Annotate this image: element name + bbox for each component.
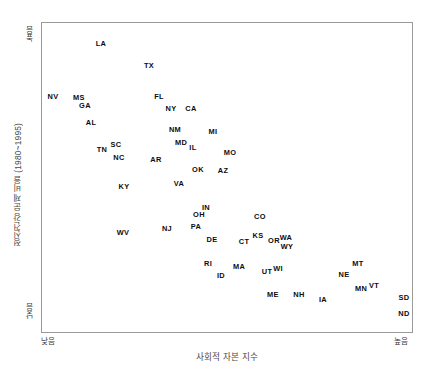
data-point-label: CA — [185, 105, 196, 112]
data-point-label: ND — [398, 310, 409, 317]
data-point-label: AL — [86, 119, 97, 126]
data-point-label: NC — [113, 154, 124, 161]
data-point-label: OH — [193, 211, 205, 218]
y-axis-tick-low: 낮음 — [27, 303, 39, 319]
data-point-label: UT — [262, 268, 273, 275]
data-point-label: OR — [268, 237, 280, 244]
data-point-label: NM — [169, 126, 181, 133]
data-point-label: WA — [280, 234, 293, 241]
data-point-label: CT — [239, 238, 250, 245]
data-point-label: VT — [369, 282, 379, 289]
data-point-label: SD — [399, 294, 410, 301]
data-point-label: KY — [119, 183, 130, 190]
data-point-label: WI — [273, 265, 283, 272]
data-point-label: FL — [154, 93, 164, 100]
data-point-label: OK — [192, 166, 204, 173]
data-point-label: WV — [117, 229, 130, 236]
data-point-label: ID — [217, 272, 225, 279]
data-point-label: ME — [267, 291, 279, 298]
scatter-plot-figure: 정신건강 문제 비율 (1980~1995) 높음 낮음 LATXNVMSGAF… — [0, 0, 432, 369]
data-point-label: MO — [224, 149, 237, 156]
data-point-label: GA — [79, 102, 91, 109]
data-point-label: MA — [233, 263, 245, 270]
data-point-label: MI — [209, 128, 218, 135]
data-point-label: NV — [48, 93, 59, 100]
data-point-label: MD — [175, 139, 187, 146]
data-point-label: LA — [96, 40, 107, 47]
data-point-label: RI — [204, 260, 212, 267]
data-point-label: AZ — [218, 167, 229, 174]
data-point-label: NY — [166, 105, 177, 112]
data-point-label: IL — [189, 144, 196, 151]
x-axis-tick-low: 낮음 — [41, 338, 55, 346]
data-point-label: IA — [319, 296, 327, 303]
data-point-label: NE — [339, 271, 350, 278]
data-point-label: MN — [355, 285, 367, 292]
data-point-label: CO — [254, 213, 266, 220]
data-point-label: TX — [144, 62, 154, 69]
plot-area: LATXNVMSGAFLNYCAALNMMIMDILTNSCNCARMOOKAZ… — [41, 22, 413, 333]
data-point-label: PA — [191, 223, 201, 230]
y-axis-tick-high: 높음 — [27, 26, 39, 42]
data-point-label: SC — [111, 141, 122, 148]
data-point-label: KS — [253, 232, 264, 239]
data-point-label: TN — [97, 146, 108, 153]
x-axis-tick-high: 높음 — [394, 338, 408, 346]
data-point-label: AR — [150, 156, 161, 163]
data-point-label: NH — [293, 291, 304, 298]
y-axis-title: 정신건강 문제 비율 (1980~1995) — [10, 0, 26, 369]
data-point-label: VA — [174, 180, 184, 187]
data-point-label: DE — [207, 236, 218, 243]
data-point-label: NJ — [162, 225, 172, 232]
data-point-label: MT — [352, 260, 363, 267]
x-axis-title: 사회적 자본 지수 — [41, 350, 413, 362]
data-point-label: WY — [281, 243, 294, 250]
